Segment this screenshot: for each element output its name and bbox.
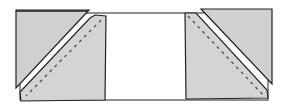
quilt-diagram: [0, 0, 284, 106]
